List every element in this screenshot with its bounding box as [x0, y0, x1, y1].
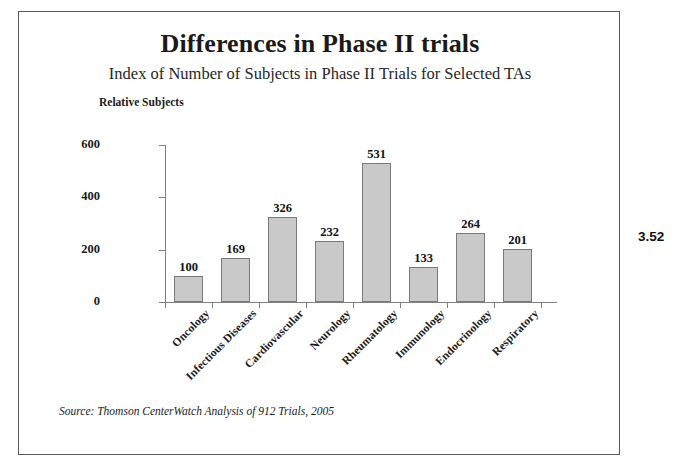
x-tick-mark: [494, 302, 495, 308]
x-tick-mark: [306, 302, 307, 308]
bar-value-label: 531: [367, 147, 386, 162]
bar: 531: [362, 163, 391, 302]
x-tick-mark: [259, 302, 260, 308]
bar: 264: [456, 233, 485, 302]
bar: 133: [409, 267, 438, 302]
bar-value-label: 232: [320, 225, 339, 240]
x-tick-mark: [541, 302, 542, 308]
y-tick-label: 0: [94, 294, 100, 309]
bar: 169: [221, 258, 250, 302]
x-axis-category-label: Oncology: [169, 307, 211, 349]
bar-value-label: 169: [226, 242, 245, 257]
x-axis-category-label: Neurology: [307, 307, 352, 352]
x-tick-mark: [165, 302, 166, 308]
x-tick-mark: [212, 302, 213, 308]
x-tick-mark: [447, 302, 448, 308]
bar-value-label: 100: [179, 260, 198, 275]
y-tick-mark: [159, 250, 166, 251]
bar-chart-plot: 0200400600 100169326232531133264201 Onco…: [105, 129, 575, 319]
y-tick-mark: [159, 145, 166, 146]
y-tick-label: 600: [81, 137, 100, 152]
y-axis-title: Relative Subjects: [99, 96, 184, 108]
x-axis-line: [165, 302, 557, 303]
y-axis-line: [165, 145, 166, 302]
page-title: Differences in Phase II trials: [19, 29, 621, 59]
slide-frame: Differences in Phase II trials Index of …: [18, 11, 620, 455]
bar-value-label: 326: [273, 201, 292, 216]
x-tick-mark: [353, 302, 354, 308]
x-tick-mark: [400, 302, 401, 308]
bar: 232: [315, 241, 344, 302]
y-tick-mark: [159, 197, 166, 198]
x-axis-category-label: Respiratory: [489, 307, 540, 358]
bar-value-label: 133: [414, 251, 433, 266]
bar-value-label: 201: [508, 233, 527, 248]
bar: 326: [268, 217, 297, 302]
source-note: Source: Thomson CenterWatch Analysis of …: [59, 405, 334, 417]
y-tick-label: 200: [81, 242, 100, 257]
bar: 201: [503, 249, 532, 302]
bar: 100: [174, 276, 203, 302]
page-subtitle: Index of Number of Subjects in Phase II …: [19, 64, 621, 84]
y-tick-label: 400: [81, 189, 100, 204]
bar-value-label: 264: [461, 217, 480, 232]
side-annotation-value: 3.52: [638, 229, 664, 244]
